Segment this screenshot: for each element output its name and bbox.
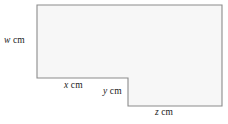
dimension-label-y: y cm — [103, 87, 122, 97]
dimension-variable-w: w — [4, 35, 10, 45]
dimension-variable-z: z — [155, 107, 159, 117]
dimension-variable-y: y — [103, 86, 107, 96]
l-shape-polygon — [37, 5, 222, 106]
l-shape-outline-svg — [0, 0, 228, 124]
geometry-figure: w cm x cm y cm z cm — [0, 0, 228, 124]
dimension-unit-w: cm — [13, 35, 25, 45]
dimension-unit-y: cm — [110, 86, 122, 96]
dimension-label-z: z cm — [155, 108, 173, 118]
dimension-variable-x: x — [64, 80, 68, 90]
dimension-unit-z: cm — [161, 107, 173, 117]
dimension-unit-x: cm — [71, 80, 83, 90]
dimension-label-x: x cm — [64, 81, 83, 91]
dimension-label-w: w cm — [4, 36, 25, 46]
